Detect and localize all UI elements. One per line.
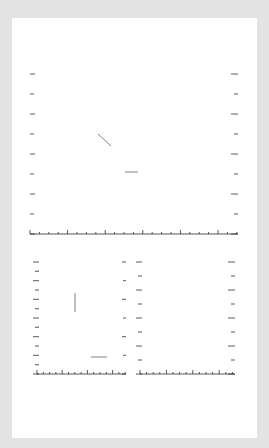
chart-br-x-ticks — [140, 370, 232, 374]
chart-top-left-ticks — [30, 74, 35, 234]
chart-bl-right-ticks — [122, 262, 126, 374]
chart-br-left-ticks — [136, 262, 142, 374]
chart-bl-svg — [12, 258, 134, 398]
chart-top-right-ticks — [231, 74, 238, 234]
chart-bl-left-ticks — [33, 262, 39, 374]
chart-br-svg — [134, 258, 257, 398]
chart-gross-saving-by-sector — [12, 258, 134, 398]
leader-gross-domestic-saving — [98, 134, 111, 146]
figure-panel — [12, 18, 257, 438]
chart-top-svg — [12, 64, 257, 254]
chart-br-right-ticks — [228, 262, 235, 374]
chart-gross-capital-formation-by-enterprise-sector — [134, 258, 257, 398]
chart-gross-saving-and-investment — [12, 64, 257, 254]
chart-bl-x-ticks — [37, 370, 125, 374]
chart-top-x-ticks — [30, 230, 237, 234]
